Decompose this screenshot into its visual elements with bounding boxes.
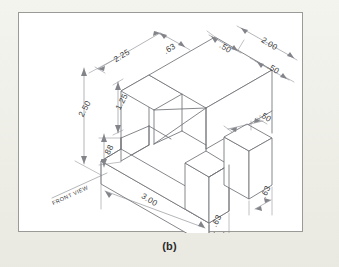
dimline-2-25 xyxy=(98,33,160,69)
dim-label-2-25: 2.25 xyxy=(112,48,131,65)
arrow-63-front-b xyxy=(223,232,229,233)
arrow-50-right-b xyxy=(280,73,287,79)
isometric-drawing: 2.25 .63 .50 2.00 .50 2.50 1.25 .88 .50 … xyxy=(19,13,304,233)
dim-label-2-00: 2.00 xyxy=(260,36,279,53)
object-geometry xyxy=(101,37,272,233)
drawing-frame: 2.25 .63 .50 2.00 .50 2.50 1.25 .88 .50 … xyxy=(18,12,303,232)
figure-caption: (b) xyxy=(0,240,339,252)
ext-50-upper-right xyxy=(238,40,244,50)
dim-label-2-50: 2.50 xyxy=(77,99,93,118)
arrow-2-50-a xyxy=(81,68,87,76)
arrow-63-front-a xyxy=(209,232,215,233)
figure-page: 2.25 .63 .50 2.00 .50 2.50 1.25 .88 .50 … xyxy=(0,0,339,267)
arrow-2-00-b xyxy=(287,52,294,58)
ext-50-right-b xyxy=(285,77,294,82)
arrow-1-25-b xyxy=(115,125,121,133)
ext-2-50-bottom xyxy=(75,161,101,175)
arrow-63-top-a xyxy=(160,33,167,39)
dimline-63-rightboss xyxy=(255,200,271,209)
arrow-2-00-a xyxy=(241,28,248,34)
front-view-label: FRONT VIEW xyxy=(51,184,89,206)
dim-label-63-top: .63 xyxy=(162,42,177,56)
arrow-63-top-b xyxy=(178,41,185,47)
front-view-leader xyxy=(52,173,107,198)
arrow-2-50-b xyxy=(81,156,87,164)
